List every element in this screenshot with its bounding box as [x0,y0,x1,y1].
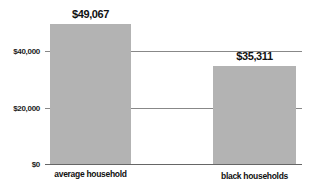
value-label-black-households: $35,311 [213,50,296,62]
y-tick-20000: $20,000 [0,104,40,113]
bar-average-household [50,24,131,164]
y-tick-40000: $40,000 [0,47,40,56]
value-label-average-household: $49,067 [50,8,131,20]
x-label-black-households: black households [203,171,306,181]
y-tick-0: $0 [0,160,40,169]
bar-chart: $40,000 $20,000 $0 $49,067 $35,311 avera… [0,0,315,191]
bar-black-households [213,66,296,164]
baseline [45,164,302,165]
x-label-average-household: average household [40,169,141,179]
